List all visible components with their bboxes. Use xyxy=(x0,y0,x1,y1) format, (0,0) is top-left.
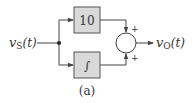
sum-sign-top: + xyxy=(131,24,139,34)
input-label: vS(t) xyxy=(9,35,37,51)
integrator-block-label: ∫ xyxy=(84,59,91,73)
sum-sign-bottom: + xyxy=(131,53,139,63)
branch-top-line xyxy=(59,20,73,43)
bottom-to-sum-line xyxy=(100,54,126,65)
branch-bottom-line xyxy=(59,43,73,65)
gain-block-label: 10 xyxy=(79,14,94,28)
output-label: vO(t) xyxy=(156,35,185,51)
block-diagram: vS(t) 10 ∫ + + vO(t) (a) xyxy=(0,0,193,103)
top-to-sum-line xyxy=(100,20,126,32)
caption: (a) xyxy=(79,84,96,98)
summing-junction xyxy=(116,33,136,53)
